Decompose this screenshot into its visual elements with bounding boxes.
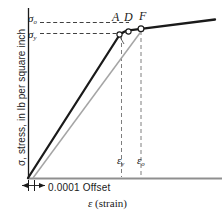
sigma-o-label: σo: [28, 13, 37, 26]
epsilon-o-subscript: o: [141, 160, 144, 167]
marker-point-a: [117, 32, 122, 37]
epsilon-y-label: εy: [117, 155, 124, 168]
x-axis-text: (strain): [95, 197, 127, 209]
sigma-y-subscript: y: [33, 34, 36, 41]
marker-point-f: [138, 26, 144, 32]
knee-detail-stroke: [120, 37, 124, 44]
epsilon-y-subscript: y: [121, 160, 124, 167]
x-axis-label: ε (strain): [88, 198, 127, 209]
epsilon-o-label: εo: [137, 155, 145, 168]
marker-point-d: [126, 29, 131, 34]
sigma-o-subscript: o: [33, 18, 36, 25]
offset-annotation-label: 0.0001 Offset: [48, 183, 110, 193]
point-d-label: D: [124, 11, 133, 23]
stress-strain-figure: σo σy A D F εy εo 0.0001 Offset ε (strai…: [0, 0, 222, 216]
offset-parallel-line: [33, 30, 143, 179]
point-a-label: A: [112, 11, 119, 23]
y-axis-label: σ, stress, in lb per square inch: [16, 23, 27, 173]
offset-arrow-right-icon: [39, 183, 45, 188]
point-f-label: F: [139, 10, 146, 22]
x-axis-symbol: ε: [88, 197, 92, 209]
sigma-y-label: σy: [28, 29, 36, 42]
offset-arrow-left-icon: [22, 183, 28, 188]
